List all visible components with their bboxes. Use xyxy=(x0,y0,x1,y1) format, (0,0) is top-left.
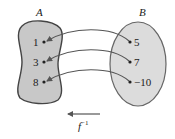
set-a-label: A xyxy=(35,6,43,18)
element-a-3: 3 xyxy=(33,56,39,68)
element-b-5: 5 xyxy=(134,36,140,48)
set-b-label: B xyxy=(139,6,146,18)
function-label: f−1 xyxy=(78,119,89,132)
element-a-8: 8 xyxy=(33,76,39,88)
inverse-function-diagram: A B 1 3 8 5 7 −10 f−1 xyxy=(0,0,175,139)
element-b-7: 7 xyxy=(134,56,140,68)
element-b-neg10: −10 xyxy=(134,76,152,88)
point-a-1 xyxy=(42,40,45,43)
element-a-1: 1 xyxy=(33,36,39,48)
point-a-3 xyxy=(42,60,45,63)
point-a-8 xyxy=(42,80,45,83)
set-a-region xyxy=(18,21,62,104)
